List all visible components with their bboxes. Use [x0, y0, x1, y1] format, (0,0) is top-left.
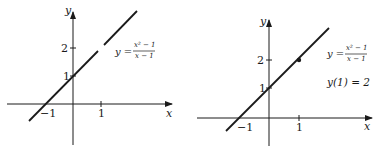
right-equation-denominator: x − 1 [347, 55, 366, 63]
left-equation-denominator: x − 1 [135, 52, 154, 60]
right-x-axis-label: x [364, 120, 371, 133]
right-equation-lhs: y = [326, 48, 344, 59]
left-x-axis-label: x [166, 107, 173, 120]
right-x-tick-label-neg1: −1 [237, 121, 253, 134]
right-condition-note: y(1) = 2 [326, 76, 370, 88]
right-y-tick-label-2: 2 [257, 54, 264, 67]
right-y-tick-label-1: 1 [259, 82, 266, 95]
left-equation-numerator: x² − 1 [134, 41, 156, 49]
right-equation-numerator: x² − 1 [346, 44, 368, 52]
left-x-tick-label-neg1: −1 [40, 107, 56, 120]
right-x-tick-label-1: 1 [296, 121, 303, 134]
left-x-tick-label-1: 1 [98, 107, 105, 120]
right-function-line [226, 28, 329, 131]
right-y-axis-label: y [259, 15, 267, 28]
left-graph: y x −1 1 1 2 y = x² − 1 x − 1 [7, 4, 173, 145]
left-equation-lhs: y = [114, 46, 132, 57]
left-y-axis-label: y [64, 4, 72, 17]
figure: y x −1 1 1 2 y = x² − 1 x − 1 y x −1 1 1… [0, 0, 378, 151]
left-y-tick-label-1: 1 [63, 70, 70, 83]
right-graph: y x −1 1 1 2 y = x² − 1 x − 1 y(1) = 2 [197, 15, 372, 146]
left-function-line-upper [104, 11, 137, 45]
right-point-1-2 [297, 58, 301, 62]
left-y-tick-label-2: 2 [61, 42, 68, 55]
